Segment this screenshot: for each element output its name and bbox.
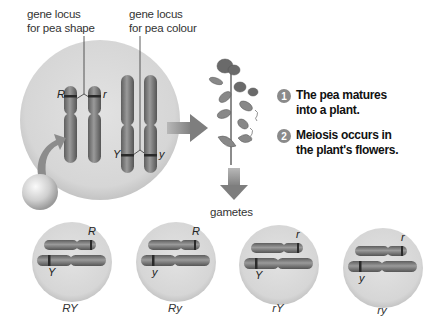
colour-locus-label-line2: for pea colour — [129, 21, 197, 35]
gamete-3-label: rY — [258, 302, 298, 314]
step-2-line1: Meiosis occurs in — [296, 128, 398, 143]
step-number-1: 1 — [277, 89, 291, 103]
chromosome-y — [144, 75, 157, 173]
chromosome-R — [64, 86, 77, 163]
shape-locus-label: gene locus for pea shape — [27, 7, 95, 35]
chromosome-Y — [121, 75, 134, 173]
gamete-1-shape-allele: R — [88, 225, 96, 237]
colour-locus-label: gene locus for pea colour — [129, 7, 197, 35]
allele-r: r — [103, 88, 107, 100]
chromosome-r — [88, 86, 101, 163]
gamete-cell-rY — [239, 225, 319, 305]
gamete-1-colour-allele: Y — [48, 266, 55, 278]
gamete-2-shape-allele: R — [192, 225, 200, 237]
step-1-line2: into a plant. — [296, 103, 387, 118]
step-2-line2: the plant's flowers. — [296, 143, 398, 158]
pea-plant-icon — [208, 59, 258, 165]
gametes-label: gametes — [210, 205, 253, 219]
gamete-4-shape-allele: r — [401, 231, 405, 243]
step-1-text: The pea matures into a plant. — [296, 88, 387, 118]
gamete-2-label: Ry — [155, 302, 195, 314]
step-2: 2 Meiosis occurs in the plant's flowers. — [277, 128, 437, 158]
allele-R: R — [57, 88, 65, 100]
down-arrow-icon — [220, 168, 248, 200]
gamete-3-shape-allele: r — [296, 228, 300, 240]
gamete-cell-RY — [32, 222, 112, 302]
step-1-line1: The pea matures — [296, 88, 387, 103]
step-2-text: Meiosis occurs in the plant's flowers. — [296, 128, 398, 158]
gamete-2-colour-allele: y — [152, 266, 158, 278]
allele-Y: Y — [113, 148, 120, 160]
diagram-graphics — [0, 0, 447, 325]
pea-seed-icon — [22, 174, 58, 210]
gamete-1-label: RY — [50, 302, 90, 314]
step-number-2: 2 — [277, 129, 291, 143]
step-list: 1 The pea matures into a plant. 2 Meiosi… — [277, 88, 437, 158]
allele-y: y — [159, 148, 165, 160]
gamete-4-label: ry — [362, 304, 402, 316]
gamete-cell-Ry — [136, 222, 216, 302]
colour-locus-label-line1: gene locus — [129, 7, 197, 21]
shape-locus-label-line2: for pea shape — [27, 21, 95, 35]
gamete-cell-ry — [343, 228, 423, 308]
step-1: 1 The pea matures into a plant. — [277, 88, 437, 118]
shape-locus-label-line1: gene locus — [27, 7, 95, 21]
gamete-3-colour-allele: Y — [255, 269, 262, 281]
gamete-4-colour-allele: y — [359, 272, 365, 284]
